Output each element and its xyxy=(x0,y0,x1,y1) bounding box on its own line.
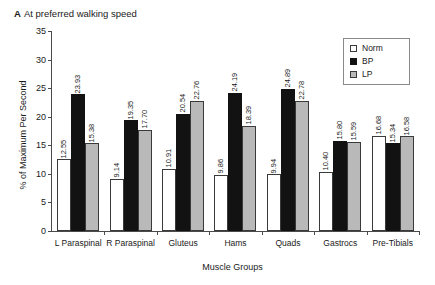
bar-group: 9.9424.8922.78Quads xyxy=(262,31,314,231)
chart-legend: NormBPLP xyxy=(343,38,410,85)
x-axis-group-label: Gastrocs xyxy=(323,238,357,248)
bar-value-label: 9.94 xyxy=(270,159,278,174)
x-axis-tick xyxy=(314,231,315,235)
x-axis-tick xyxy=(262,231,263,235)
bar-value-label: 15.34 xyxy=(389,124,397,143)
bar-norm[interactable]: 9.14 xyxy=(110,179,124,231)
y-axis-title: % of Maximum Per Second xyxy=(18,55,28,215)
bar-value-label: 12.55 xyxy=(60,140,68,159)
y-axis-tick-label: 35 xyxy=(36,26,46,36)
y-axis-tick-label: 10 xyxy=(36,169,46,179)
bar-group: 10.9120.5422.76Gluteus xyxy=(157,31,209,231)
bar-lp[interactable]: 15.38 xyxy=(85,143,99,231)
y-axis-tick-label: 5 xyxy=(41,197,46,207)
bar-value-label: 10.91 xyxy=(165,149,173,168)
legend-swatch-norm xyxy=(350,45,357,52)
x-axis-group-label: Gluteus xyxy=(168,238,197,248)
bar-value-label: 16.58 xyxy=(403,116,411,135)
bar-norm[interactable]: 9.94 xyxy=(267,174,281,231)
bar-value-label: 24.19 xyxy=(232,73,240,92)
bar-value-label: 9.14 xyxy=(113,163,121,178)
bar-norm[interactable]: 10.40 xyxy=(319,172,333,231)
y-axis-tick xyxy=(48,231,52,232)
x-axis-group-label: L Paraspinal xyxy=(55,238,102,248)
legend-item-norm[interactable]: Norm xyxy=(350,43,404,53)
bar-value-label: 22.78 xyxy=(298,81,306,100)
bar-lp[interactable]: 16.58 xyxy=(400,136,414,231)
bar-norm[interactable]: 10.91 xyxy=(162,169,176,231)
bar-value-label: 9.86 xyxy=(218,159,226,174)
x-axis-tick xyxy=(209,231,210,235)
bar-value-label: 15.59 xyxy=(351,122,359,141)
bar-group-bars: 12.5523.9315.38 xyxy=(52,31,104,231)
bar-lp[interactable]: 22.78 xyxy=(295,101,309,231)
bar-value-label: 16.68 xyxy=(375,116,383,135)
x-axis-group-label: Quads xyxy=(275,238,300,248)
legend-item-bp[interactable]: BP xyxy=(350,56,404,66)
bar-group-bars: 9.8624.1918.39 xyxy=(209,31,261,231)
bar-bp[interactable]: 24.19 xyxy=(228,93,242,231)
panel-title: AAt preferred walking speed xyxy=(14,8,137,19)
bar-bp[interactable]: 24.89 xyxy=(281,89,295,231)
bar-lp[interactable]: 15.59 xyxy=(347,142,361,231)
legend-label: BP xyxy=(362,56,373,66)
bar-value-label: 15.80 xyxy=(337,121,345,140)
bar-value-label: 18.39 xyxy=(246,106,254,125)
x-axis-tick xyxy=(104,231,105,235)
bar-bp[interactable]: 23.93 xyxy=(71,94,85,231)
panel-title-text: At preferred walking speed xyxy=(24,8,137,19)
bar-lp[interactable]: 18.39 xyxy=(242,126,256,231)
bar-value-label: 22.76 xyxy=(193,81,201,100)
bar-group-bars: 10.9120.5422.76 xyxy=(157,31,209,231)
bar-norm[interactable]: 12.55 xyxy=(57,159,71,231)
legend-swatch-bp xyxy=(350,58,357,65)
x-axis-group-label: Hams xyxy=(224,238,246,248)
bar-group: 9.1419.3517.70R Paraspinal xyxy=(104,31,156,231)
y-axis-tick-label: 15 xyxy=(36,140,46,150)
x-axis-tick xyxy=(367,231,368,235)
bar-bp[interactable]: 15.80 xyxy=(333,141,347,231)
bar-value-label: 15.38 xyxy=(88,123,96,142)
panel-letter: A xyxy=(14,8,21,19)
legend-swatch-lp xyxy=(350,71,357,78)
y-axis-tick-label: 25 xyxy=(36,83,46,93)
x-axis-tick xyxy=(157,231,158,235)
y-axis-tick-label: 20 xyxy=(36,112,46,122)
bar-bp[interactable]: 19.35 xyxy=(124,120,138,231)
legend-label: LP xyxy=(362,69,372,79)
bar-bp[interactable]: 15.34 xyxy=(386,143,400,231)
bar-value-label: 19.35 xyxy=(127,101,135,120)
bar-lp[interactable]: 22.76 xyxy=(190,101,204,231)
legend-label: Norm xyxy=(362,43,383,53)
bar-bp[interactable]: 20.54 xyxy=(176,114,190,231)
bar-group: 12.5523.9315.38L Paraspinal xyxy=(52,31,104,231)
bar-value-label: 24.89 xyxy=(284,69,292,88)
bar-lp[interactable]: 17.70 xyxy=(138,130,152,231)
bar-group-bars: 9.9424.8922.78 xyxy=(262,31,314,231)
bar-value-label: 23.93 xyxy=(74,74,82,93)
legend-item-lp[interactable]: LP xyxy=(350,69,404,79)
bar-value-label: 20.54 xyxy=(179,94,187,113)
x-axis-title: Muscle Groups xyxy=(45,262,420,272)
bar-value-label: 17.70 xyxy=(141,110,149,129)
x-axis-tick xyxy=(419,231,420,235)
bar-value-label: 10.40 xyxy=(323,152,331,171)
x-axis-group-label: Pre-Tibials xyxy=(373,238,413,248)
bar-norm[interactable]: 16.68 xyxy=(372,136,386,231)
y-axis-tick-label: 30 xyxy=(36,55,46,65)
y-axis-tick-label: 0 xyxy=(41,226,46,236)
bar-group-bars: 9.1419.3517.70 xyxy=(104,31,156,231)
bar-norm[interactable]: 9.86 xyxy=(214,175,228,231)
bar-group: 9.8624.1918.39Hams xyxy=(209,31,261,231)
x-axis-group-label: R Paraspinal xyxy=(106,238,155,248)
